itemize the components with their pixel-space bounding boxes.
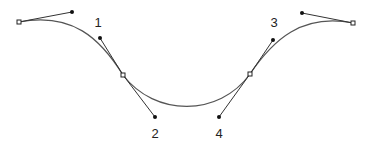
control-point-left-end[interactable] bbox=[70, 10, 74, 14]
anchor-points bbox=[17, 20, 355, 77]
label-2: 2 bbox=[151, 127, 158, 140]
bezier-diagram bbox=[0, 0, 372, 144]
control-point-1[interactable] bbox=[98, 36, 102, 40]
control-point-2[interactable] bbox=[153, 115, 157, 119]
label-3: 3 bbox=[270, 16, 277, 29]
anchor-left-endpoint[interactable] bbox=[17, 20, 21, 24]
label-1: 1 bbox=[94, 16, 101, 29]
control-point-3[interactable] bbox=[271, 38, 275, 42]
handle-4 bbox=[219, 74, 250, 117]
anchor-right-endpoint[interactable] bbox=[351, 21, 355, 25]
control-point-right-end[interactable] bbox=[300, 11, 304, 15]
bezier-curve bbox=[19, 20, 353, 107]
handle-3 bbox=[250, 40, 273, 74]
handle-2 bbox=[123, 75, 155, 117]
control-point-4[interactable] bbox=[217, 115, 221, 119]
control-points bbox=[70, 10, 304, 119]
anchor-left-mid[interactable] bbox=[121, 73, 125, 77]
anchor-right-mid[interactable] bbox=[248, 72, 252, 76]
label-4: 4 bbox=[215, 127, 222, 140]
handle-1 bbox=[100, 38, 123, 75]
handle-lines bbox=[19, 12, 353, 117]
